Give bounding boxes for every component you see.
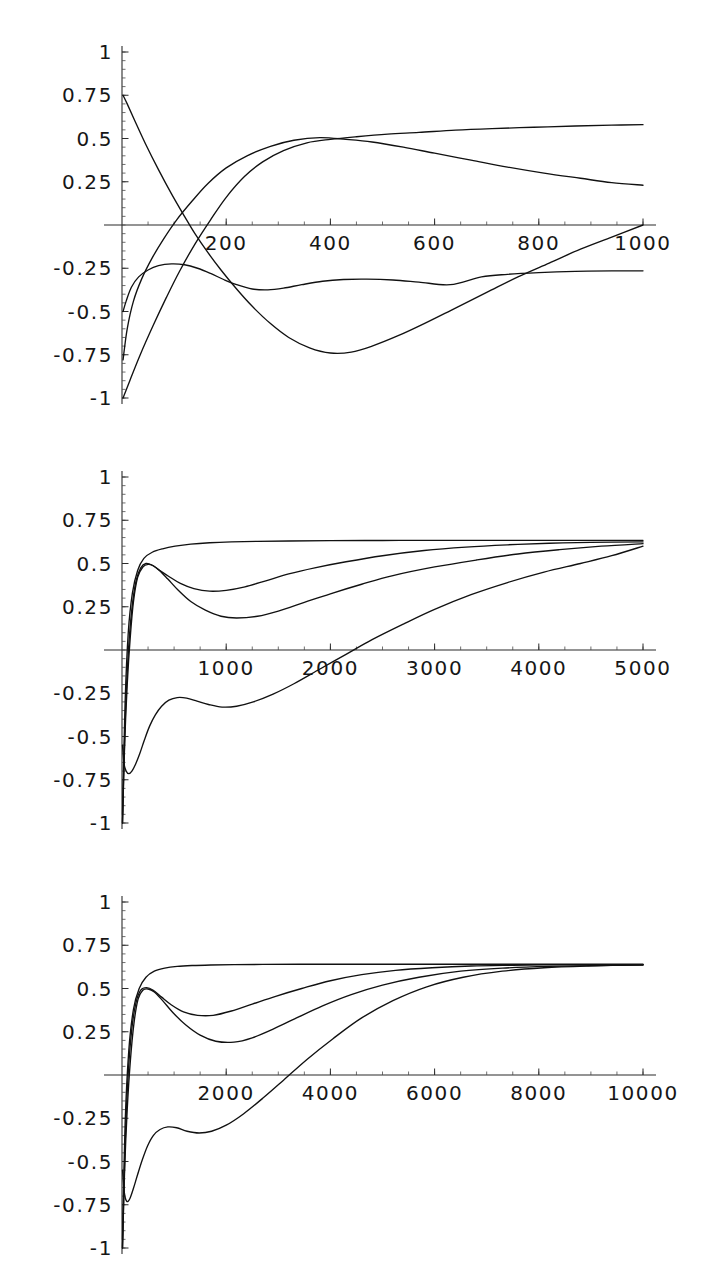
y-tick-label: 0.5 <box>76 552 113 576</box>
curve-curve-d <box>123 125 643 398</box>
x-tick-label: 2000 <box>198 1081 255 1105</box>
x-tick-label: 1000 <box>198 656 255 680</box>
x-tick-label: 5000 <box>614 656 671 680</box>
y-tick-label: 0.75 <box>62 83 113 107</box>
y-tick-label: 0.5 <box>76 977 113 1001</box>
plot-3-svg: 200040006000800010000-1-0.75-0.5-0.250.2… <box>0 850 714 1275</box>
y-tick-label: -1 <box>90 811 113 835</box>
plot-panel-3: 200040006000800010000-1-0.75-0.5-0.250.2… <box>0 850 714 1275</box>
plot-panel-1: 2004006008001000-1-0.75-0.5-0.250.250.50… <box>0 0 714 425</box>
y-tick-label: -0.25 <box>53 681 113 705</box>
y-tick-label: 0.25 <box>62 170 113 194</box>
x-tick-label: 4000 <box>302 1081 359 1105</box>
curve-curve-a <box>123 965 643 1248</box>
x-tick-label: 10000 <box>607 1081 679 1105</box>
y-tick-label: 0.75 <box>62 933 113 957</box>
y-tick-label: 0.25 <box>62 595 113 619</box>
x-tick-label: 1000 <box>614 231 671 255</box>
y-tick-label: -1 <box>90 386 113 410</box>
x-tick-label: 800 <box>517 231 560 255</box>
y-tick-label: -0.5 <box>68 1150 113 1174</box>
curve-curve-b <box>123 264 643 312</box>
plot-1-svg: 2004006008001000-1-0.75-0.5-0.250.250.50… <box>0 0 714 425</box>
x-tick-label: 6000 <box>406 1081 463 1105</box>
curve-curve-c <box>123 138 643 360</box>
y-tick-label: 0.5 <box>76 127 113 151</box>
x-tick-label: 400 <box>309 231 352 255</box>
y-tick-label: -0.25 <box>53 256 113 280</box>
y-tick-label: -0.75 <box>53 1193 113 1217</box>
y-tick-label: -0.5 <box>68 725 113 749</box>
y-tick-label: 0.75 <box>62 508 113 532</box>
y-tick-label: -0.25 <box>53 1106 113 1130</box>
y-tick-label: -0.75 <box>53 768 113 792</box>
y-tick-label: 1 <box>99 40 113 64</box>
x-tick-label: 200 <box>205 231 248 255</box>
x-tick-label: 4000 <box>510 656 567 680</box>
x-tick-label: 600 <box>413 231 456 255</box>
x-tick-label: 8000 <box>510 1081 567 1105</box>
y-tick-label: 1 <box>99 465 113 489</box>
curve-curve-a <box>123 544 643 823</box>
curve-curve-c <box>123 542 643 823</box>
y-tick-label: -1 <box>90 1236 113 1260</box>
x-tick-label: 3000 <box>406 656 463 680</box>
y-tick-label: 1 <box>99 890 113 914</box>
plot-panel-2: 10002000300040005000-1-0.75-0.5-0.250.25… <box>0 425 714 850</box>
y-tick-label: 0.25 <box>62 1020 113 1044</box>
figure-page: 2004006008001000-1-0.75-0.5-0.250.250.50… <box>0 0 714 1275</box>
x-tick-label: 2000 <box>302 656 359 680</box>
curve-curve-c <box>123 965 643 1248</box>
y-tick-label: -0.5 <box>68 300 113 324</box>
plot-2-svg: 10002000300040005000-1-0.75-0.5-0.250.25… <box>0 425 714 850</box>
y-tick-label: -0.75 <box>53 343 113 367</box>
